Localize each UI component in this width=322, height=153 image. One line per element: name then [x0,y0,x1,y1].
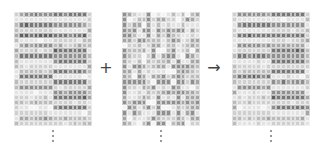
matrix-cell [195,121,200,126]
dot [52,130,54,132]
dot [160,130,162,132]
ellipsis-right [269,130,273,142]
dot [160,135,162,137]
dot [160,140,162,142]
matrix-cell [87,121,92,126]
output-matrix [232,12,310,126]
noise-matrix [122,12,200,126]
dot [52,135,54,137]
dot [270,130,272,132]
dot [270,135,272,137]
input-matrix [14,12,92,126]
dot [270,140,272,142]
arrow-icon: → [206,58,222,78]
ellipsis-middle [159,130,163,142]
ellipsis-left [51,130,55,142]
plus-operator: + [98,58,114,78]
matrix-cell [305,121,310,126]
dot [52,140,54,142]
